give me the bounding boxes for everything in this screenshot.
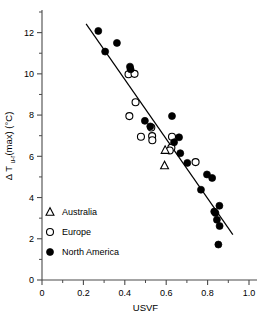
data-point-north-america — [141, 117, 148, 124]
legend-marker-australia — [46, 208, 54, 216]
chart-figure: 02468101200.20.40.60.81.0USVFΔ T u-r(max… — [0, 0, 266, 321]
y-tick-label: 12 — [24, 28, 34, 38]
data-point-north-america — [176, 134, 183, 141]
data-point-north-america — [127, 66, 134, 73]
data-point-north-america — [147, 123, 154, 130]
x-tick-label: 0.8 — [201, 288, 214, 298]
x-tick-label: 0.6 — [160, 288, 173, 298]
y-axis-title: Δ T u-r(max) (°C) — [3, 112, 16, 181]
x-tick-label: 0 — [39, 288, 44, 298]
regression-line — [86, 24, 233, 235]
data-point-australia — [161, 161, 169, 169]
scatter-plot: 02468101200.20.40.60.81.0USVFΔ T u-r(max… — [0, 0, 266, 321]
legend-label-north-america: North America — [62, 247, 119, 257]
legend-marker-north-america — [47, 249, 54, 256]
y-tick-label: 10 — [24, 69, 34, 79]
legend-marker-europe — [47, 229, 54, 236]
data-point-north-america — [102, 48, 109, 55]
legend-label-europe: Europe — [62, 227, 91, 237]
data-point-north-america — [209, 174, 216, 181]
data-point-europe — [126, 113, 133, 120]
data-point-north-america — [216, 202, 223, 209]
data-point-europe — [149, 137, 156, 144]
y-tick-label: 2 — [29, 234, 34, 244]
data-point-north-america — [212, 210, 219, 217]
data-point-europe — [137, 133, 144, 140]
y-tick-label: 0 — [29, 275, 34, 285]
y-tick-label: 6 — [29, 152, 34, 162]
data-point-europe — [192, 159, 199, 166]
x-tick-label: 1.0 — [243, 288, 256, 298]
data-point-europe — [132, 99, 139, 106]
data-point-north-america — [215, 241, 222, 248]
data-point-north-america — [177, 150, 184, 157]
data-point-north-america — [216, 222, 223, 229]
y-tick-label: 4 — [29, 193, 34, 203]
data-point-north-america — [197, 186, 204, 193]
x-tick-label: 0.4 — [119, 288, 132, 298]
data-point-north-america — [95, 27, 102, 34]
data-point-north-america — [168, 113, 175, 120]
data-point-north-america — [184, 159, 191, 166]
x-axis-title: USVF — [133, 302, 159, 313]
y-tick-label: 8 — [29, 110, 34, 120]
x-tick-label: 0.2 — [77, 288, 90, 298]
legend-label-australia: Australia — [62, 207, 97, 217]
data-point-north-america — [113, 39, 120, 46]
